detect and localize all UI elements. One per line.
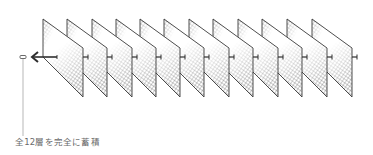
layer-panels <box>43 19 357 97</box>
accumulator-icon <box>20 56 26 59</box>
layer-stack-diagram <box>0 0 373 155</box>
caption-label: 全12層を完全に蓄積 <box>15 137 100 148</box>
accumulator-marker <box>20 56 26 137</box>
